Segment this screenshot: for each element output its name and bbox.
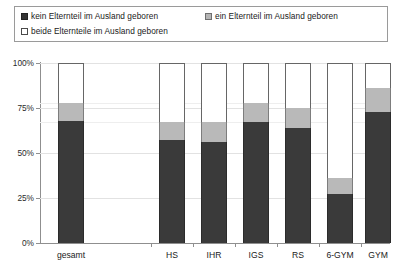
bar-segment <box>58 103 84 121</box>
bar-segment <box>58 63 84 103</box>
legend-label: ein Elternteil im Ausland geboren <box>215 12 338 20</box>
x-axis-line <box>40 243 390 244</box>
bar-segment <box>159 63 185 122</box>
legend-entries: kein Elternteil im Ausland geboren ein E… <box>15 7 387 41</box>
x-axis-label-hs: HS <box>166 250 178 260</box>
black-square-icon <box>21 13 28 20</box>
bar-6-gym <box>327 63 353 243</box>
bar-segment <box>243 122 269 243</box>
x-axis-label-rs: RS <box>292 250 304 260</box>
bar-segment <box>285 128 311 243</box>
y-axis-tick-label: 75% <box>0 103 34 113</box>
x-axis-label-gesamt: gesamt <box>57 250 85 260</box>
bar-segment <box>365 63 391 88</box>
bar-segment <box>365 112 391 243</box>
bar-segment <box>243 103 269 123</box>
chart-legend: kein Elternteil im Ausland geboren ein E… <box>14 6 388 42</box>
x-axis-tick-mark <box>277 243 278 247</box>
x-axis-label-gym: GYM <box>368 250 388 260</box>
legend-item-ein-elternteil: ein Elternteil im Ausland geboren <box>205 12 338 20</box>
legend-item-kein-elternteil: kein Elternteil im Ausland geboren <box>21 12 158 20</box>
legend-label: beide Elternteile im Ausland geboren <box>31 27 168 35</box>
bar-segment <box>327 194 353 243</box>
bar-hs <box>159 63 185 243</box>
x-axis-tick-mark <box>361 243 362 247</box>
x-axis-tick-mark <box>193 243 194 247</box>
y-axis-tick-label: 0% <box>0 238 34 248</box>
x-axis-tick-mark <box>151 243 152 247</box>
bar-gym <box>365 63 391 243</box>
bar-segment <box>159 140 185 243</box>
bar-segment <box>201 63 227 122</box>
y-axis-tick-label: 100% <box>0 58 34 68</box>
bar-ihr <box>201 63 227 243</box>
plot-area <box>40 63 388 243</box>
x-axis-label-igs: IGS <box>249 250 264 260</box>
white-square-icon <box>21 28 28 35</box>
bar-segment <box>201 122 227 142</box>
bar-rs <box>285 63 311 243</box>
x-axis-tick-mark <box>235 243 236 247</box>
gray-square-icon <box>205 13 212 20</box>
x-axis-label-6-gym: 6-GYM <box>326 250 353 260</box>
y-axis-tick-label: 50% <box>0 148 34 158</box>
bar-segment <box>159 122 185 140</box>
legend-label: kein Elternteil im Ausland geboren <box>31 12 158 20</box>
bar-segment <box>327 178 353 194</box>
x-axis-label-ihr: IHR <box>207 250 222 260</box>
bar-igs <box>243 63 269 243</box>
bar-segment <box>201 142 227 243</box>
x-axis-tick-mark <box>319 243 320 247</box>
bar-segment <box>243 63 269 103</box>
stacked-bar-chart: kein Elternteil im Ausland geboren ein E… <box>0 0 404 278</box>
bar-segment <box>285 63 311 108</box>
bar-segment <box>365 88 391 111</box>
bar-gesamt <box>58 63 84 243</box>
legend-item-beide-elternteile: beide Elternteile im Ausland geboren <box>21 27 168 35</box>
bar-segment <box>58 121 84 243</box>
y-axis-tick-mark <box>36 243 40 244</box>
bar-segment <box>285 108 311 128</box>
bar-segment <box>327 63 353 178</box>
y-axis-tick-label: 25% <box>0 193 34 203</box>
